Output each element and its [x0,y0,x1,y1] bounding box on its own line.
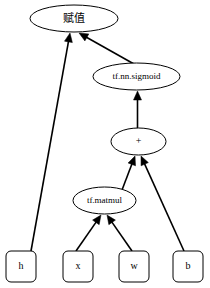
graph-node-sigmoid[interactable]: tf.nn.sigmoid [93,63,180,90]
edge-matmul-to-add [122,156,136,190]
node-label-sigmoid: tf.nn.sigmoid [112,71,161,81]
edge-line [122,162,133,190]
edge-x-to-matmul [76,215,101,251]
node-label-assign: 赋值 [63,12,85,24]
graph-node-w[interactable]: w [119,251,149,282]
node-label-x: x [76,260,81,271]
node-label-b: b [186,260,191,271]
graph-node-add[interactable]: + [111,128,166,155]
edge-b-to-add [141,156,184,251]
node-label-w: w [130,260,138,271]
edge-line [31,39,69,251]
edge-h-to-assign [31,33,72,251]
edge-add-to-sigmoid [134,91,142,128]
arrowhead-icon [141,156,148,166]
arrowhead-icon [134,91,142,100]
arrowhead-icon [128,156,135,166]
arrowhead-icon [93,215,101,225]
edge-w-to-matmul [107,215,132,251]
graph-svg-surface: 赋值tf.nn.sigmoid+tf.matmulhxwb [0,0,210,288]
node-label-add: + [136,135,142,146]
arrowhead-icon [64,33,72,43]
arrowhead-icon [107,215,115,225]
edge-line [111,220,132,251]
edge-line [76,220,97,251]
arrowhead-icon [79,33,89,41]
graph-node-b[interactable]: b [173,251,203,282]
edge-sigmoid-to-assign [79,33,134,64]
graph-node-matmul[interactable]: tf.matmul [73,187,136,214]
graph-node-x[interactable]: x [63,251,93,282]
graph-node-h[interactable]: h [6,251,36,282]
computation-graph-diagram: 赋值tf.nn.sigmoid+tf.matmulhxwb [0,0,210,288]
node-label-h: h [19,260,24,271]
edge-line [85,36,134,64]
graph-node-assign[interactable]: 赋值 [30,5,118,32]
node-label-matmul: tf.matmul [87,195,123,205]
edge-line [144,162,184,251]
